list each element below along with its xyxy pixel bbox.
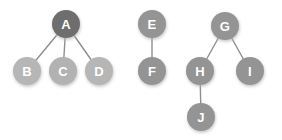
graph-node-b[interactable]: B: [13, 57, 41, 85]
graph-diagram-canvas: ABCDEFGHIJ: [0, 0, 282, 140]
node-circle-g[interactable]: [211, 12, 239, 40]
graph-node-e[interactable]: E: [138, 10, 166, 38]
graph-node-j[interactable]: J: [187, 103, 215, 131]
graph-node-d[interactable]: D: [85, 57, 113, 85]
graph-node-a[interactable]: A: [52, 10, 80, 38]
node-circle-e[interactable]: [138, 10, 166, 38]
node-circle-c[interactable]: [49, 57, 77, 85]
nodes-layer: ABCDEFGHIJ: [13, 10, 264, 131]
graph-svg: ABCDEFGHIJ: [0, 0, 282, 140]
node-circle-i[interactable]: [236, 57, 264, 85]
node-circle-d[interactable]: [85, 57, 113, 85]
node-circle-b[interactable]: [13, 57, 41, 85]
node-circle-a[interactable]: [52, 10, 80, 38]
node-circle-j[interactable]: [187, 103, 215, 131]
graph-node-c[interactable]: C: [49, 57, 77, 85]
graph-node-h[interactable]: H: [186, 57, 214, 85]
graph-node-g[interactable]: G: [211, 12, 239, 40]
node-circle-f[interactable]: [138, 57, 166, 85]
graph-node-f[interactable]: F: [138, 57, 166, 85]
node-circle-h[interactable]: [186, 57, 214, 85]
graph-node-i[interactable]: I: [236, 57, 264, 85]
